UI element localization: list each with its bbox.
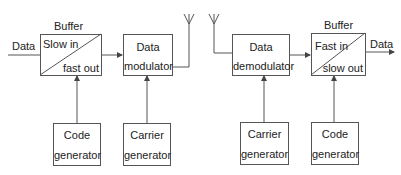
code-gen-line2: generator <box>54 149 100 161</box>
demodulator-line2: demodulator <box>233 60 289 72</box>
buffer-title: Buffer <box>324 19 353 31</box>
data-modulator-block: Data modulator <box>123 34 173 76</box>
buffer-bottom-text: slow out <box>323 62 363 74</box>
modulator-line1: Data <box>124 41 172 53</box>
tx-buffer-block: Slow in fast out <box>40 34 102 76</box>
carrier-gen-line2: generator <box>124 149 170 161</box>
buffer-top-text: Slow in <box>43 38 78 50</box>
output-data-label: Data <box>370 38 393 50</box>
demodulator-line1: Data <box>233 41 289 53</box>
rx-code-generator-block: Code generator <box>311 122 359 165</box>
rx-carrier-generator-block: Carrier generator <box>240 122 289 165</box>
rx-buffer-block: Fast in slow out <box>311 33 366 76</box>
input-data-label: Data <box>12 40 35 52</box>
carrier-gen-line1: Carrier <box>124 129 170 141</box>
tx-carrier-generator-block: Carrier generator <box>123 123 171 166</box>
modulator-line2: modulator <box>124 60 172 72</box>
data-demodulator-block: Data demodulator <box>232 34 290 76</box>
carrier-gen-line1: Carrier <box>241 128 288 140</box>
code-gen-line1: Code <box>54 129 100 141</box>
carrier-gen-line2: generator <box>241 148 288 160</box>
buffer-bottom-text: fast out <box>63 62 99 74</box>
buffer-title: Buffer <box>54 20 83 32</box>
code-gen-line2: generator <box>312 148 358 160</box>
code-gen-line1: Code <box>312 128 358 140</box>
buffer-top-text: Fast in <box>315 40 348 52</box>
tx-code-generator-block: Code generator <box>53 123 101 166</box>
